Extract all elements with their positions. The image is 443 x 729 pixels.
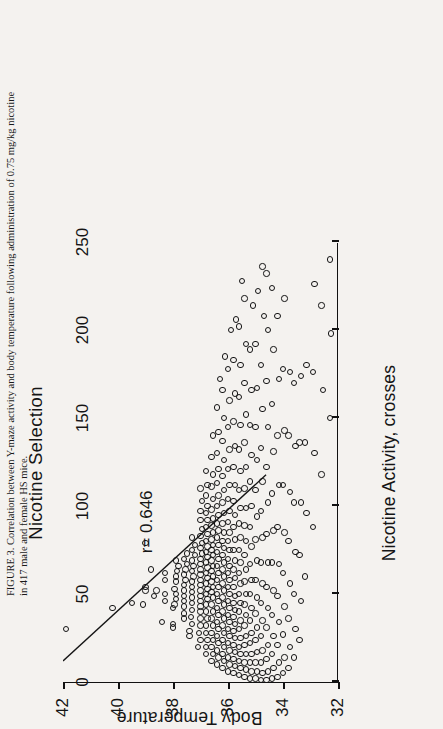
data-point [296, 552, 302, 558]
data-point [197, 485, 203, 491]
data-point [285, 615, 291, 621]
data-point [298, 373, 304, 379]
data-point [162, 570, 168, 576]
x-tick [332, 329, 339, 331]
x-tick-label: 50 [73, 585, 93, 604]
data-point [247, 346, 253, 352]
data-point [230, 418, 236, 424]
data-point [241, 485, 247, 491]
data-point [129, 600, 135, 606]
data-point [153, 587, 159, 593]
data-point [241, 380, 247, 386]
data-point [247, 617, 253, 623]
data-point [236, 394, 242, 400]
data-point [190, 573, 196, 579]
data-point [236, 447, 242, 453]
x-axis-title: Nicotine Activity, crosses [379, 243, 400, 683]
data-point [182, 566, 188, 572]
x-tick [332, 241, 339, 243]
data-point [241, 439, 247, 445]
data-point [109, 605, 115, 611]
plot-area [63, 243, 337, 682]
data-point [162, 598, 168, 604]
data-point [63, 626, 69, 632]
data-point [181, 603, 187, 609]
data-point [226, 397, 232, 403]
data-point [269, 285, 275, 291]
data-point [239, 278, 245, 284]
data-point [225, 556, 231, 562]
data-point [222, 353, 228, 359]
data-point [232, 512, 238, 518]
data-point [241, 601, 247, 607]
data-point [287, 580, 293, 586]
data-point [281, 529, 287, 535]
data-point [291, 380, 297, 386]
data-point [214, 480, 220, 486]
data-point [263, 656, 269, 662]
data-point [310, 524, 316, 530]
data-point [269, 612, 275, 618]
data-point [171, 601, 177, 607]
data-point [291, 591, 297, 597]
data-point [269, 651, 275, 657]
data-point [230, 584, 236, 590]
data-point [248, 630, 254, 636]
data-point [280, 482, 286, 488]
data-point [230, 498, 236, 504]
data-point [265, 642, 271, 648]
data-point [208, 557, 214, 563]
data-point [302, 573, 308, 579]
data-point [274, 313, 280, 319]
data-point [215, 492, 221, 498]
data-point [276, 659, 282, 665]
data-point [248, 543, 254, 549]
data-point [148, 566, 154, 572]
data-point [280, 366, 286, 372]
data-point [303, 510, 309, 516]
data-point [173, 573, 179, 579]
data-point [287, 489, 293, 495]
data-point [228, 327, 234, 333]
data-point [287, 369, 293, 375]
y-tick [173, 682, 175, 689]
data-point [328, 330, 334, 336]
data-point [203, 468, 209, 474]
data-point [254, 457, 260, 463]
data-point [269, 491, 275, 497]
data-point [248, 503, 254, 509]
data-point [252, 577, 258, 583]
data-point [280, 670, 286, 676]
data-point [241, 623, 247, 629]
data-point [261, 313, 267, 319]
data-point [214, 404, 220, 410]
data-point [263, 624, 269, 630]
data-point [285, 538, 291, 544]
data-point [217, 376, 223, 382]
data-point [263, 584, 269, 590]
data-point [236, 323, 242, 329]
data-point [311, 450, 317, 456]
data-point [320, 387, 326, 393]
data-point [318, 471, 324, 477]
data-point [258, 633, 264, 639]
data-point [236, 608, 242, 614]
data-point [203, 651, 209, 657]
data-point [259, 647, 265, 653]
data-point [285, 432, 291, 438]
data-point [254, 513, 260, 519]
scatter-figure: Nicotine Selection 050100150200250 32343… [29, 213, 443, 729]
data-point [237, 422, 243, 428]
data-point [252, 610, 258, 616]
data-point [310, 369, 316, 375]
data-point [281, 654, 287, 660]
data-point [258, 600, 264, 606]
data-point [274, 642, 280, 648]
data-point [142, 584, 148, 590]
data-point [259, 263, 265, 269]
data-point [270, 448, 276, 454]
y-axis-title: Body Temperature [52, 707, 327, 728]
data-point [259, 617, 265, 623]
data-point [237, 559, 243, 565]
